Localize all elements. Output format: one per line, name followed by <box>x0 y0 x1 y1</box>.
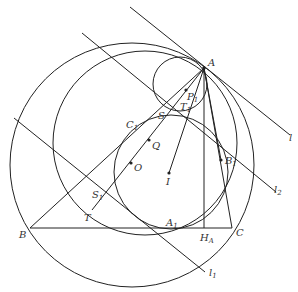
point-b1 <box>219 158 222 161</box>
label-c: C <box>236 227 244 238</box>
label-p1: P1 <box>186 91 198 104</box>
label-line-l: l <box>289 132 292 143</box>
label-ha: HA <box>199 232 214 245</box>
tangent-line-l <box>130 7 290 135</box>
line-a-b1 <box>204 68 221 160</box>
line-l1 <box>14 118 205 272</box>
label-a: A <box>207 57 215 68</box>
label-b: B <box>18 229 26 240</box>
label-q: Q <box>152 140 160 151</box>
diagram-canvas: A B C A1 HA B1 C1 O Q I P1 T1 S S1 T l l… <box>0 0 298 292</box>
circumcircle <box>10 43 254 287</box>
label-line-l1: l1 <box>209 267 217 280</box>
label-b1: B1 <box>224 155 237 168</box>
label-o: O <box>134 162 142 173</box>
point-i <box>167 171 170 174</box>
point-a <box>202 66 206 70</box>
label-i: I <box>165 176 171 187</box>
side-ab <box>30 68 204 228</box>
label-t1: T1 <box>180 101 191 114</box>
point-q <box>147 138 150 141</box>
label-line-l2: l2 <box>274 184 282 197</box>
point-o <box>129 161 132 164</box>
label-s1: S1 <box>92 189 103 202</box>
label-s: S <box>158 110 165 121</box>
geometry-diagram: A B C A1 HA B1 C1 O Q I P1 T1 S S1 T l l… <box>0 0 298 292</box>
